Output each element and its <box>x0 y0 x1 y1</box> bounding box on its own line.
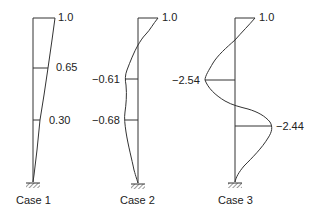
case-1-fixed-support <box>26 183 40 188</box>
case-2-label: Case 2 <box>120 194 155 206</box>
case-3-marker-2-value: −2.44 <box>276 120 304 132</box>
case-1-diagram <box>26 18 55 188</box>
case-1-marker-2-value: 0.30 <box>49 114 70 126</box>
case-3-diagram <box>205 18 272 188</box>
case-3-top-value: 1.0 <box>259 11 274 23</box>
case-2-marker-1-value: −0.61 <box>92 73 120 85</box>
case-3-mode-curve <box>205 18 272 182</box>
case-2-top-value: 1.0 <box>162 11 177 23</box>
case-3-label: Case 3 <box>218 194 253 206</box>
case-2-mode-curve <box>125 18 158 183</box>
case-2-fixed-support <box>131 184 145 189</box>
case-2-diagram <box>125 18 158 189</box>
case-2-marker-2-value: −0.68 <box>92 114 120 126</box>
case-3-fixed-support <box>228 183 242 188</box>
case-3-marker-1-value: −2.54 <box>172 74 200 86</box>
mode-shapes-drawing <box>0 0 316 217</box>
case-1-label: Case 1 <box>16 194 51 206</box>
case-1-top-value: 1.0 <box>58 11 73 23</box>
case-1-marker-1-value: 0.65 <box>56 61 77 73</box>
case-1-mode-curve <box>33 18 55 182</box>
